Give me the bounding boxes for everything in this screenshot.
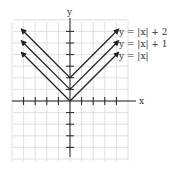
curve-label-abs-plus-1: y = |x| + 1 [118, 39, 167, 50]
x-axis-label: x [139, 96, 144, 106]
curve-label-abs: y = |x| [118, 51, 149, 62]
y-axis-label: y [66, 7, 73, 17]
curve-label-abs-plus-2: y = |x| + 2 [118, 27, 167, 38]
absolute-value-graph: x y y = |x| + 2 y = |x| + 1 y = |x| [0, 0, 170, 169]
